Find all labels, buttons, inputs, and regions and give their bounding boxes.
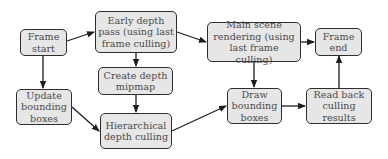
edge-early-depth-to-main-scene: [177, 32, 206, 42]
node-label: Hierarchical depth culling: [104, 120, 168, 143]
node-draw-bounding-boxes: Draw bounding boxes: [227, 88, 282, 124]
node-early-depth-pass: Early depth pass (using last frame culli…: [95, 11, 177, 53]
edge-hier-cull-to-draw-bb: [172, 106, 226, 131]
edge-frame-start-to-early-depth: [67, 32, 94, 41]
node-hierarchical-depth-culling: Hierarchical depth culling: [100, 113, 172, 149]
node-label: Main scene rendering (using last frame c…: [210, 19, 298, 65]
node-read-back-culling-results: Read back culling results: [306, 88, 372, 124]
node-frame-end: Frame end: [315, 28, 362, 56]
edge-update-bb-to-hier-cull: [72, 107, 99, 131]
node-update-bounding-boxes: Update bounding boxes: [16, 89, 72, 125]
node-label: Frame start: [28, 31, 60, 54]
edges-layer: [0, 0, 388, 159]
node-main-scene-rendering: Main scene rendering (using last frame c…: [207, 22, 301, 62]
node-label: Frame end: [323, 31, 355, 54]
node-label: Draw bounding boxes: [232, 89, 278, 124]
flowchart-canvas: Frame start Early depth pass (using last…: [0, 0, 388, 159]
node-frame-start: Frame start: [20, 29, 67, 56]
node-label: Update bounding boxes: [21, 90, 67, 125]
node-label: Read back culling results: [314, 89, 365, 124]
node-label: Early depth pass (using last frame culli…: [98, 15, 174, 50]
node-create-depth-mipmap: Create depth mipmap: [98, 67, 173, 95]
node-label: Create depth mipmap: [104, 70, 168, 93]
